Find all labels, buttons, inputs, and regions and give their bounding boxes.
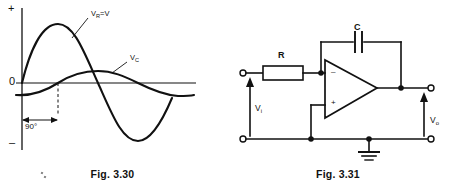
opamp-noninverting-sign: + (331, 99, 336, 107)
curve-label-v-c-sub: C (135, 57, 139, 63)
leader-line-v-r (72, 18, 88, 38)
axis-label-positive: + (8, 2, 14, 14)
curve-label-v-c: VC (130, 53, 139, 62)
output-voltage-label-sub: o (436, 120, 439, 126)
figure-caption-3-31: Fig. 3.31 (225, 168, 451, 180)
vi-arrow-head (246, 77, 254, 87)
waveform-plot-canvas (0, 0, 225, 165)
figure-caption-3-30: Fig. 3.30 (0, 168, 225, 180)
input-voltage-label-sub: i (261, 108, 262, 114)
input-terminal-bottom (240, 136, 246, 142)
junction-dot-rail-left (308, 136, 314, 142)
input-voltage-label-main: V (255, 103, 261, 113)
circuit-diagram-canvas (225, 0, 451, 165)
figure-pair-container: + 0 – VR=V VC 90° Fig. 3.30 (0, 0, 451, 193)
opamp-inverting-sign: – (331, 68, 335, 76)
curve-label-v-r-sub: R (96, 13, 100, 19)
resistor-body (263, 66, 303, 80)
axis-label-zero: 0 (9, 75, 15, 87)
input-voltage-label: Vi (255, 103, 262, 113)
phase-arrow-head-right (51, 117, 58, 123)
leader-line-v-c (112, 62, 127, 73)
capacitor-label: C (354, 22, 361, 32)
figure-3-31-panel: R C – + Vi Vo Fig. 3.31 (225, 0, 451, 193)
output-terminal-top (428, 85, 434, 91)
axis-label-negative: – (9, 136, 15, 148)
output-voltage-label: Vo (430, 115, 439, 125)
output-terminal-bottom (428, 136, 434, 142)
curve-label-v-r: VR=V (91, 9, 109, 18)
output-voltage-label-main: V (430, 115, 436, 125)
junction-dot-output (398, 85, 404, 91)
vo-arrow-head (420, 92, 428, 102)
resistor-label: R (278, 50, 285, 60)
figure-3-30-panel: + 0 – VR=V VC 90° Fig. 3.30 (0, 0, 225, 193)
curve-label-v-r-tail: =V (100, 9, 109, 18)
phase-angle-label: 90° (25, 122, 37, 131)
input-terminal-top (240, 70, 246, 76)
